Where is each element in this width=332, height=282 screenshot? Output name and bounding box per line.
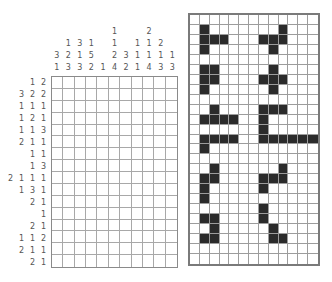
puzzle-cell[interactable] <box>63 243 74 255</box>
puzzle-cell[interactable] <box>75 172 86 184</box>
puzzle-cell[interactable] <box>143 89 154 101</box>
puzzle-cell[interactable] <box>63 184 74 196</box>
puzzle-cell[interactable] <box>166 255 177 267</box>
puzzle-cell[interactable] <box>52 113 63 125</box>
puzzle-cell[interactable] <box>52 172 63 184</box>
puzzle-cell[interactable] <box>109 231 120 243</box>
puzzle-cell[interactable] <box>132 101 143 113</box>
puzzle-cell[interactable] <box>132 208 143 220</box>
puzzle-cell[interactable] <box>120 184 131 196</box>
puzzle-cell[interactable] <box>75 101 86 113</box>
puzzle-cell[interactable] <box>132 184 143 196</box>
puzzle-cell[interactable] <box>120 89 131 101</box>
puzzle-cell[interactable] <box>154 89 165 101</box>
puzzle-cell[interactable] <box>75 220 86 232</box>
puzzle-cell[interactable] <box>132 136 143 148</box>
puzzle-cell[interactable] <box>97 148 108 160</box>
puzzle-cell[interactable] <box>166 220 177 232</box>
puzzle-cell[interactable] <box>97 136 108 148</box>
puzzle-cell[interactable] <box>63 255 74 267</box>
puzzle-cell[interactable] <box>75 136 86 148</box>
puzzle-cell[interactable] <box>132 148 143 160</box>
puzzle-cell[interactable] <box>97 113 108 125</box>
puzzle-cell[interactable] <box>86 101 97 113</box>
puzzle-cell[interactable] <box>166 77 177 89</box>
puzzle-cell[interactable] <box>109 101 120 113</box>
puzzle-cell[interactable] <box>97 255 108 267</box>
puzzle-cell[interactable] <box>132 172 143 184</box>
puzzle-cell[interactable] <box>52 208 63 220</box>
puzzle-cell[interactable] <box>120 113 131 125</box>
puzzle-cell[interactable] <box>120 172 131 184</box>
puzzle-cell[interactable] <box>75 77 86 89</box>
puzzle-cell[interactable] <box>52 184 63 196</box>
puzzle-cell[interactable] <box>154 148 165 160</box>
puzzle-cell[interactable] <box>86 136 97 148</box>
puzzle-cell[interactable] <box>86 184 97 196</box>
puzzle-cell[interactable] <box>52 160 63 172</box>
puzzle-cell[interactable] <box>166 243 177 255</box>
puzzle-cell[interactable] <box>132 113 143 125</box>
puzzle-cell[interactable] <box>52 136 63 148</box>
puzzle-cell[interactable] <box>86 243 97 255</box>
puzzle-cell[interactable] <box>120 255 131 267</box>
puzzle-cell[interactable] <box>75 243 86 255</box>
puzzle-cell[interactable] <box>63 196 74 208</box>
puzzle-cell[interactable] <box>52 101 63 113</box>
puzzle-cell[interactable] <box>120 136 131 148</box>
puzzle-cell[interactable] <box>97 184 108 196</box>
puzzle-cell[interactable] <box>86 125 97 137</box>
puzzle-cell[interactable] <box>52 77 63 89</box>
puzzle-cell[interactable] <box>86 89 97 101</box>
puzzle-cell[interactable] <box>143 255 154 267</box>
puzzle-cell[interactable] <box>166 125 177 137</box>
puzzle-cell[interactable] <box>109 243 120 255</box>
puzzle-cell[interactable] <box>75 196 86 208</box>
puzzle-cell[interactable] <box>132 255 143 267</box>
puzzle-cell[interactable] <box>154 184 165 196</box>
puzzle-cell[interactable] <box>120 160 131 172</box>
puzzle-cell[interactable] <box>143 125 154 137</box>
puzzle-cell[interactable] <box>97 172 108 184</box>
puzzle-cell[interactable] <box>109 184 120 196</box>
puzzle-cell[interactable] <box>143 148 154 160</box>
puzzle-cell[interactable] <box>143 172 154 184</box>
puzzle-cell[interactable] <box>86 77 97 89</box>
puzzle-cell[interactable] <box>120 125 131 137</box>
puzzle-cell[interactable] <box>109 160 120 172</box>
puzzle-cell[interactable] <box>120 220 131 232</box>
puzzle-cell[interactable] <box>52 196 63 208</box>
puzzle-cell[interactable] <box>75 231 86 243</box>
puzzle-cell[interactable] <box>166 101 177 113</box>
puzzle-cell[interactable] <box>154 243 165 255</box>
puzzle-cell[interactable] <box>63 148 74 160</box>
puzzle-cell[interactable] <box>132 125 143 137</box>
puzzle-cell[interactable] <box>86 113 97 125</box>
puzzle-cell[interactable] <box>166 231 177 243</box>
puzzle-cell[interactable] <box>166 136 177 148</box>
puzzle-cell[interactable] <box>97 77 108 89</box>
puzzle-cell[interactable] <box>154 77 165 89</box>
puzzle-cell[interactable] <box>143 243 154 255</box>
puzzle-cell[interactable] <box>86 148 97 160</box>
puzzle-cell[interactable] <box>166 208 177 220</box>
puzzle-cell[interactable] <box>154 160 165 172</box>
puzzle-cell[interactable] <box>97 208 108 220</box>
puzzle-cell[interactable] <box>63 101 74 113</box>
puzzle-cell[interactable] <box>154 220 165 232</box>
puzzle-cell[interactable] <box>132 231 143 243</box>
puzzle-cell[interactable] <box>143 196 154 208</box>
puzzle-cell[interactable] <box>97 243 108 255</box>
puzzle-cell[interactable] <box>109 148 120 160</box>
puzzle-cell[interactable] <box>109 172 120 184</box>
puzzle-cell[interactable] <box>52 220 63 232</box>
puzzle-cell[interactable] <box>75 113 86 125</box>
puzzle-cell[interactable] <box>97 125 108 137</box>
puzzle-cell[interactable] <box>132 220 143 232</box>
puzzle-cell[interactable] <box>166 172 177 184</box>
puzzle-cell[interactable] <box>75 89 86 101</box>
puzzle-cell[interactable] <box>86 231 97 243</box>
puzzle-cell[interactable] <box>166 113 177 125</box>
puzzle-cell[interactable] <box>109 136 120 148</box>
puzzle-cell[interactable] <box>52 125 63 137</box>
